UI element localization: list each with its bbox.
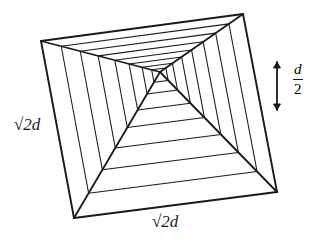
contour-ring-0-seg-1	[229, 24, 257, 172]
contour-ring-3-seg-2	[127, 118, 204, 128]
contour-ring-2-seg-1	[203, 42, 221, 135]
bottom-edge-label: √2d	[152, 213, 178, 230]
contour-ring-6-seg-3	[152, 70, 154, 82]
outer-top-edge	[41, 14, 243, 41]
ridge-line-2	[160, 72, 277, 192]
contour-ring-1-seg-2	[102, 152, 238, 169]
fraction-bar-icon	[293, 79, 303, 80]
outer-left-edge	[41, 41, 74, 218]
ridge-line-3	[74, 72, 160, 218]
left-edge-label: √2d	[14, 116, 40, 133]
outer-right-edge	[243, 14, 277, 192]
contour-ring-2-seg-2	[115, 134, 221, 148]
contour-ring-0-seg-2	[89, 172, 257, 194]
contour-ring-1-seg-3	[80, 51, 102, 170]
bottom-edge-label-text: √2d	[152, 213, 178, 230]
contour-ring-5-seg-3	[142, 67, 147, 94]
pyramid-figure: √2d √2d d 2	[0, 0, 328, 250]
geometry-group	[41, 14, 277, 218]
left-edge-label-text: √2d	[14, 116, 40, 133]
contour-ring-3-seg-3	[115, 60, 128, 127]
depth-arrow-icon	[274, 62, 281, 110]
contour-ring-6-seg-2	[154, 80, 168, 82]
contour-ring-4-seg-2	[138, 103, 191, 110]
depth-label: d 2	[292, 62, 304, 97]
depth-label-numerator: d	[292, 62, 304, 78]
contour-ring-5-seg-2	[147, 90, 177, 94]
contour-ring-2-seg-3	[98, 56, 115, 148]
contour-ring-1-seg-0	[80, 33, 215, 51]
contour-ring-4-seg-3	[129, 64, 138, 110]
depth-label-denominator: 2	[292, 81, 304, 98]
